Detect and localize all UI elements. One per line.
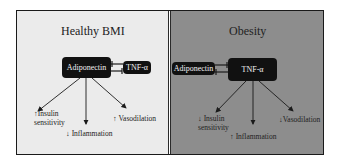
node-adiponectin-obesity: Adiponectin (172, 62, 215, 75)
panel-title-healthy: Healthy BMI (61, 24, 125, 39)
up-arrow-icon: ↑ (113, 114, 117, 123)
node-tnf-alpha-healthy: TNF-α (123, 61, 151, 74)
effect-vasodilation-healthy: ↑ Vasodilation (113, 114, 156, 123)
effect-insulin-sensitivity-obesity: ↓ Insulin sensitivity (198, 114, 229, 132)
down-arrow-icon: ↓ (66, 129, 70, 138)
node-tnf-alpha-obesity: TNF-α (228, 58, 277, 81)
effect-inflammation-obesity: ↑ Inflammation (230, 132, 276, 141)
up-arrow-icon: ↑ (230, 132, 234, 141)
node-adiponectin-healthy: Adiponectin (62, 57, 111, 78)
effect-vasodilation-obesity: ↓Vasodilation (279, 115, 320, 124)
down-arrow-icon: ↓ (198, 114, 202, 123)
effect-inflammation-healthy: ↓ Inflammation (66, 129, 112, 138)
effect-insulin-sensitivity-healthy: ↑Insulin sensitivity (34, 109, 65, 127)
panel-title-obesity: Obesity (229, 24, 266, 39)
